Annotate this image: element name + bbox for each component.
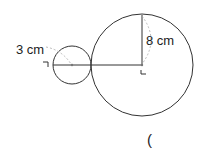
small-radius-label: 3 cm [16, 43, 44, 56]
left-end-mark [43, 62, 48, 67]
diagram: 3 cm 8 cm ( [0, 0, 206, 153]
small-center-dot [71, 64, 73, 66]
large-center-dot [141, 64, 143, 66]
center-angle-mark [141, 70, 146, 74]
circles-figure [0, 0, 206, 153]
small-radius-leader [46, 47, 71, 64]
large-radius-label: 8 cm [146, 34, 174, 47]
answer-paren: ( [147, 132, 152, 147]
